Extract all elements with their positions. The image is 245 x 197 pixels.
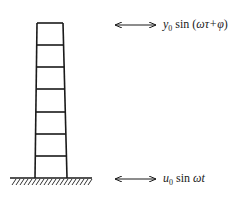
left-column: [35, 23, 37, 178]
top-motion-close: ): [224, 17, 228, 31]
top-motion-label: y0 sin (ωτ+φ): [163, 17, 228, 33]
base-motion-fn: sin: [173, 171, 193, 185]
base-motion-label: u0 sin ωt: [163, 171, 205, 187]
ground-hatch: [12, 179, 92, 185]
ground: [10, 178, 92, 185]
building-frame: [35, 23, 67, 178]
right-column: [63, 23, 67, 178]
top-motion-fn: sin (: [172, 17, 196, 31]
base-motion-arg: ωt: [193, 171, 205, 185]
top-motion-arg: ωτ+φ: [196, 17, 224, 31]
